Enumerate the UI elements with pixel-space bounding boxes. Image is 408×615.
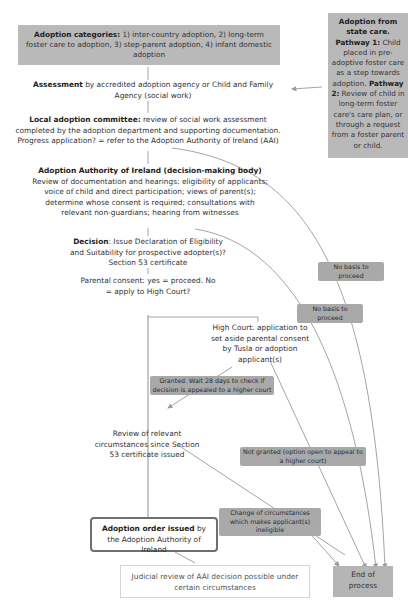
not-granted-label: Not granted (option open to appeal to a … — [240, 447, 366, 466]
categories-heading: Adoption categories: — [34, 30, 120, 39]
high-court-text: High Court: application to set aside par… — [211, 323, 309, 364]
high-court-node: High Court: application to set aside par… — [210, 323, 310, 365]
adoption-categories-box: Adoption categories: 1) inter-country ad… — [18, 25, 280, 65]
no-basis-label-2-text: No basis to proceed — [312, 305, 347, 321]
local-committee-heading: Local adoption committee: — [29, 115, 140, 124]
granted-label: Granted. Wait 28 days to check if decisi… — [150, 376, 274, 395]
end-of-process-text: End of process — [349, 570, 377, 590]
judicial-review-text: Judicial review of AAI decision possible… — [132, 572, 299, 592]
state-care-title: Adoption from state care. — [339, 17, 397, 36]
change-circumstances-label: Change of circumstances which makes appl… — [219, 508, 321, 536]
judicial-review-box: Judicial review of AAI decision possible… — [120, 565, 310, 598]
no-basis-label-1: No basis to proceed — [318, 262, 384, 281]
state-care-box: Adoption from state care. Pathway 1: Chi… — [328, 13, 408, 158]
change-circumstances-label-text: Change of circumstances which makes appl… — [230, 509, 310, 533]
aai-text: Review of documentation and hearings: el… — [32, 177, 268, 218]
granted-label-text: Granted. Wait 28 days to check if decisi… — [153, 377, 272, 393]
decision-node: Decision: Issue Declaration of Eligibili… — [68, 237, 228, 269]
decision-heading: Decision — [73, 237, 108, 246]
no-basis-label-2: No basis to proceed — [297, 304, 363, 323]
adoption-order-box: Adoption order issued by the Adoption Au… — [90, 517, 218, 552]
parental-consent-text: Parental consent: yes = proceed. No = ap… — [80, 276, 215, 296]
assessment-heading: Assessment — [33, 80, 83, 89]
adoption-order-heading: Adoption order issued — [102, 524, 195, 533]
assessment-node: Assessment by accredited adoption agency… — [28, 80, 278, 101]
assessment-text: by accredited adoption agency or Child a… — [83, 80, 273, 100]
parental-consent-node: Parental consent: yes = proceed. No = ap… — [80, 276, 216, 297]
no-basis-label-1-text: No basis to proceed — [333, 263, 368, 279]
end-of-process-box: End of process — [333, 566, 393, 597]
not-granted-label-text: Not granted (option open to appeal to a … — [243, 448, 363, 464]
review-circumstances-text: Review of relevant circumstances since S… — [95, 429, 200, 459]
aai-node: Adoption Authority of Ireland (decision-… — [30, 166, 270, 219]
pathway-1-label: Pathway 1: — [335, 38, 380, 47]
review-circumstances-node: Review of relevant circumstances since S… — [92, 429, 202, 461]
aai-heading: Adoption Authority of Ireland (decision-… — [30, 166, 270, 177]
local-committee-node: Local adoption committee: review of soci… — [12, 115, 284, 147]
pathway-2-text: Review of child in long-term foster care… — [332, 89, 405, 149]
